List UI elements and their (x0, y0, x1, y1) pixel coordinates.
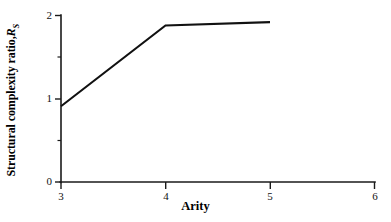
y-tick-label-0: 0 (38, 176, 52, 187)
y-tick-label-2: 2 (38, 10, 52, 21)
x-axis-title: Arity (0, 199, 391, 214)
data-series-line (61, 22, 270, 106)
y-axis-title: Structural complexity ratio,RS (4, 24, 20, 177)
line-chart-plot (0, 0, 391, 222)
y-axis-subscript: S (10, 24, 20, 29)
y-axis-symbol: R (4, 28, 18, 36)
y-axis-title-text: Structural complexity ratio, (4, 36, 18, 176)
y-axis-title-container: Structural complexity ratio,RS (0, 0, 24, 200)
y-tick-label-1: 1 (38, 93, 52, 104)
chart-figure: 2 1 0 3 4 5 6 Structural complexity rati… (0, 0, 391, 222)
